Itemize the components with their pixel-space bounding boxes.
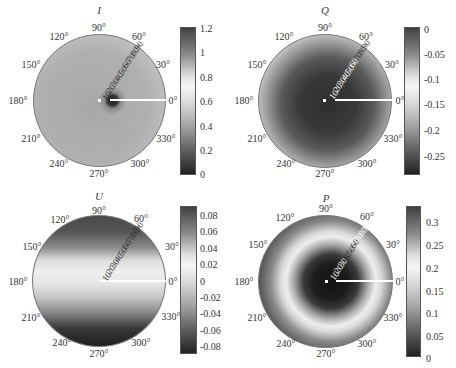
angle-label: 270° [90, 348, 109, 359]
angle-label: 30° [156, 59, 170, 70]
colorbar-p [406, 206, 421, 357]
colorbar-tick: 0.25 [426, 240, 444, 251]
angle-label: 330° [162, 311, 181, 322]
colorbar-tick: -0.08 [200, 341, 221, 352]
angle-label: 30° [385, 59, 399, 70]
colorbar-tick: -0.2 [424, 125, 440, 136]
center-marker [98, 99, 101, 102]
colorbar-tick: -0.06 [200, 325, 221, 336]
colorbar-tick: -0.05 [424, 49, 445, 60]
center-marker [325, 280, 328, 283]
angle-label: 300° [132, 337, 151, 348]
angle-label: 90° [92, 22, 106, 33]
colorbar-tick: -0.25 [424, 151, 445, 162]
colorbar-tick: 0 [200, 276, 205, 287]
angle-label: 90° [319, 203, 333, 214]
colorbar-tick: 0.8 [200, 72, 213, 83]
angle-label: 300° [358, 158, 377, 169]
colorbar-tick: -0.15 [424, 99, 445, 110]
angle-label: 210° [248, 312, 267, 323]
colorbar-tick: 0.06 [200, 226, 218, 237]
panel-title: I [97, 4, 101, 16]
angle-label: 0° [169, 95, 178, 106]
angle-label: 270° [90, 168, 109, 179]
colorbar-tick: 0.4 [200, 121, 213, 132]
colorbar-tick: -0.02 [200, 292, 221, 303]
colorbar-tick: 0.6 [200, 96, 213, 107]
angle-label: 150° [23, 241, 42, 252]
colorbar-tick: 0.08 [200, 210, 218, 221]
angle-label: 180° [9, 95, 28, 106]
angle-label: 240° [277, 338, 296, 349]
angle-label: 300° [358, 338, 377, 349]
colorbar-tick: 0.02 [200, 259, 218, 270]
angle-label: 210° [22, 312, 41, 323]
colorbar-tick: 0.1 [426, 308, 439, 319]
angle-label: 120° [51, 214, 70, 225]
angle-label: 0° [169, 276, 178, 287]
colorbar-tick: -0.1 [424, 74, 440, 85]
colorbar-tick: 0.05 [426, 331, 444, 342]
colorbar-tick: 1 [200, 47, 205, 58]
angle-label: 210° [248, 133, 267, 144]
colorbar-tick: 1.2 [200, 23, 213, 34]
angle-label: 120° [276, 212, 295, 223]
colorbar-tick: 0.2 [200, 145, 213, 156]
angle-label: 90° [318, 22, 332, 33]
colorbar-tick: 0.3 [426, 217, 439, 228]
angle-label: 330° [157, 133, 176, 144]
angle-label: 120° [50, 31, 69, 42]
colorbar-i [180, 27, 196, 175]
angle-label: 90° [92, 205, 106, 216]
zero-axis-line [110, 99, 166, 101]
angle-label: 120° [275, 31, 294, 42]
colorbar-tick: -0.04 [200, 308, 221, 319]
colorbar-u [180, 206, 197, 354]
colorbar-tick: 0.15 [426, 286, 444, 297]
center-marker [323, 99, 326, 102]
colorbar-tick: 0 [426, 353, 431, 364]
colorbar-tick: 0 [424, 24, 429, 35]
panel-title: U [95, 190, 103, 202]
angle-label: 240° [50, 158, 69, 169]
panel-title: Q [321, 4, 329, 16]
colorbar-tick: 0 [200, 169, 205, 180]
colorbar-q [404, 27, 420, 175]
angle-label: 240° [277, 158, 296, 169]
zero-axis-line [335, 99, 392, 101]
angle-label: 180° [235, 95, 254, 106]
angle-label: 270° [316, 168, 335, 179]
angle-label: 330° [384, 133, 403, 144]
angle-label: 30° [165, 241, 179, 252]
angle-label: 330° [384, 312, 403, 323]
angle-label: 210° [22, 133, 41, 144]
angle-label: 180° [9, 276, 28, 287]
zero-axis-line [336, 280, 393, 282]
angle-label: 150° [248, 59, 267, 70]
angle-label: 150° [22, 59, 41, 70]
angle-label: 240° [53, 337, 72, 348]
angle-label: 270° [317, 348, 336, 359]
angle-label: 30° [386, 239, 400, 250]
colorbar-tick: 0.2 [426, 263, 439, 274]
angle-label: 180° [235, 276, 254, 287]
angle-label: 0° [396, 276, 405, 287]
colorbar-tick: 0.04 [200, 243, 218, 254]
angle-label: 150° [249, 239, 268, 250]
angle-label: 300° [131, 158, 150, 169]
